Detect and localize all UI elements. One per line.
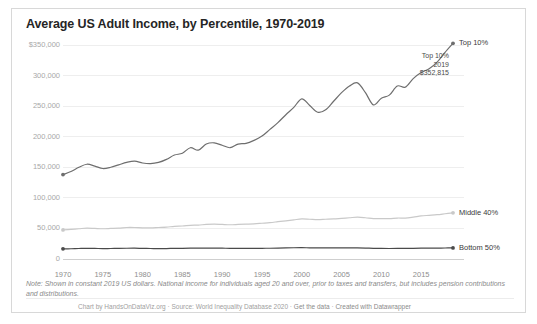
- x-axis-tick-label: 2010: [361, 270, 401, 279]
- series-endpoint-marker: [451, 246, 455, 250]
- y-axis-tick-label: 100,000: [12, 193, 60, 202]
- y-axis-tick-label: 150,000: [12, 162, 60, 171]
- annotation-value: $352,815: [401, 69, 449, 77]
- y-axis-tick-label: 0: [12, 254, 60, 263]
- series-line: [63, 43, 453, 174]
- x-axis-tick-label: 2005: [322, 270, 362, 279]
- x-axis-tick-label: 2015: [401, 270, 441, 279]
- x-axis-tick-label: 1985: [162, 270, 202, 279]
- series-label-middle-40: Middle 40%: [459, 208, 498, 217]
- series-label-bottom-50: Bottom 50%: [459, 243, 500, 252]
- x-axis-tick-label: 1970: [43, 270, 83, 279]
- series-line: [63, 213, 453, 230]
- series-endpoint-marker: [61, 173, 65, 177]
- y-axis-tick-label: 50,000: [12, 223, 60, 232]
- credit-chart-by: Chart by HandsOnDataViz.org: [78, 303, 166, 310]
- x-axis-tick-label: 1975: [83, 270, 123, 279]
- chart-credit: Chart by HandsOnDataViz.org · Source: Wo…: [78, 303, 411, 310]
- x-axis-tick-label: 1980: [123, 270, 163, 279]
- y-axis-tick-label: $350,000: [12, 40, 60, 49]
- annotation-series: Top 10%: [401, 52, 449, 60]
- series-endpoint-marker: [451, 41, 455, 45]
- plot-area: $350,000300,000250,000200,000150,000100,…: [12, 9, 525, 312]
- get-the-data-link[interactable]: Get the data: [294, 303, 330, 310]
- y-axis-tick-label: 200,000: [12, 132, 60, 141]
- series-endpoint-marker: [451, 211, 455, 215]
- annotation-callout: Top 10%2019$352,815: [401, 52, 449, 77]
- y-axis-tick-label: 250,000: [12, 101, 60, 110]
- footer-divider: [26, 298, 514, 299]
- annotation-year: 2019: [401, 61, 449, 69]
- x-axis-tick-label: 2000: [282, 270, 322, 279]
- series-endpoint-marker: [61, 247, 65, 251]
- credit-source: Source: World Inequality Database 2020: [171, 303, 288, 310]
- x-axis-tick-label: 1995: [242, 270, 282, 279]
- y-axis-tick-label: 300,000: [12, 71, 60, 80]
- series-endpoint-marker: [61, 228, 65, 232]
- created-with-datawrapper-link[interactable]: Created with Datawrapper: [335, 303, 411, 310]
- chart-card: Average US Adult Income, by Percentile, …: [11, 8, 526, 313]
- chart-note: Note: Shown in constant 2019 US dollars.…: [26, 279, 514, 298]
- series-label-top-10: Top 10%: [459, 38, 488, 47]
- series-line: [63, 248, 453, 249]
- x-axis-tick-label: 1990: [202, 270, 242, 279]
